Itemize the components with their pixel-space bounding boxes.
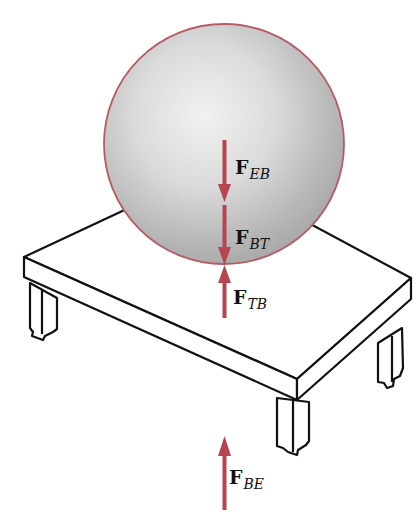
label-f-be: FBE [229,468,264,487]
force-subscript: BT [250,236,270,252]
label-f-tb: FTB [233,288,267,307]
force-symbol: F [233,286,247,308]
force-symbol: F [235,226,249,248]
force-subscript: TB [248,296,268,312]
free-body-diagram: FEB FBT FTB FBE [0,0,418,520]
force-subscript: EB [250,166,271,182]
label-f-bt: FBT [235,228,269,247]
table-leg-front [277,398,309,455]
force-symbol: F [229,466,243,488]
force-subscript: BE [244,476,265,492]
label-f-eb: FEB [235,158,270,177]
diagram-canvas [0,0,418,520]
table-leg-left [30,283,57,340]
table-leg-back-right [378,328,403,388]
force-symbol: F [235,156,249,178]
